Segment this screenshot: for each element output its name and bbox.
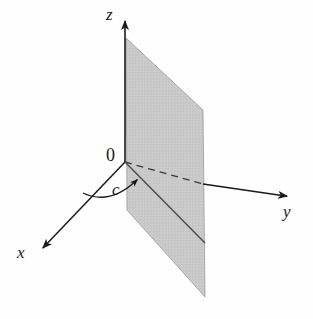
- distance-c-label: c: [112, 181, 120, 198]
- y-axis-line: [203, 184, 287, 196]
- x-axis-line: [43, 162, 125, 248]
- y-axis-label: y: [283, 203, 291, 220]
- figure-container: z y x 0 c: [0, 0, 313, 319]
- x-axis-label: x: [17, 244, 25, 261]
- z-axis-label: z: [106, 6, 113, 23]
- coordinate-diagram: [0, 0, 313, 319]
- plane-x-equals-c-fill: [126, 38, 205, 297]
- origin-label: 0: [106, 146, 115, 164]
